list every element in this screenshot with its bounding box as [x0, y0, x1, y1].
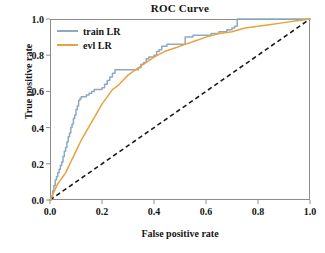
x-tick-label: 0.4: [148, 206, 161, 217]
y-tick-label: 0.2: [18, 158, 44, 169]
y-axis-label: True positive rate: [23, 2, 34, 162]
y-tick-label: 0.4: [18, 122, 44, 133]
page-title: ROC Curve: [50, 2, 310, 14]
legend-item-train-lr: train LR: [57, 25, 121, 37]
legend-label-train-lr: train LR: [83, 26, 121, 37]
x-tick-label: 0.8: [252, 206, 265, 217]
y-tick-label: 1.0: [18, 14, 44, 25]
legend-label-evl-lr: evl LR: [83, 40, 112, 51]
legend: train LR evl LR: [57, 25, 121, 51]
y-tick-label: 0.6: [18, 86, 44, 97]
legend-swatch-evl-lr: [57, 44, 78, 46]
x-tick-label: 0.6: [200, 206, 213, 217]
x-tick-label: 0.2: [96, 206, 109, 217]
roc-curve-figure: ROC Curve True positive rate False posit…: [0, 0, 325, 253]
x-tick-label: 1.0: [304, 206, 317, 217]
x-axis-label: False positive rate: [50, 228, 310, 239]
legend-swatch-train-lr: [57, 30, 78, 32]
x-tick-label: 0.0: [44, 206, 57, 217]
y-tick-label: 0.8: [18, 50, 44, 61]
y-tick-label: 0.0: [18, 195, 44, 206]
legend-item-evl-lr: evl LR: [57, 39, 121, 51]
